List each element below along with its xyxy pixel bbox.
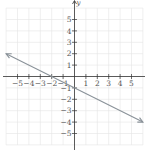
svg-text:−5: −5 [12,79,23,88]
svg-text:−5: −5 [60,129,71,138]
svg-text:4: 4 [67,27,72,36]
svg-text:−4: −4 [60,118,71,127]
svg-text:−3: −3 [35,79,46,88]
coordinate-plane: y −5−4−3−2−112345 −5−4−3−2−112345 [0,0,148,153]
svg-text:5: 5 [67,15,72,24]
svg-text:2: 2 [95,79,100,88]
svg-text:−3: −3 [60,106,71,115]
svg-text:−2: −2 [46,79,57,88]
svg-text:1: 1 [67,61,72,70]
svg-text:−2: −2 [60,95,71,104]
y-axis-label: y [76,0,82,7]
svg-text:2: 2 [67,49,72,58]
svg-text:4: 4 [118,79,123,88]
svg-text:−1: −1 [60,84,71,93]
svg-text:3: 3 [106,79,111,88]
svg-text:3: 3 [67,38,72,47]
x-ticks: −5−4−3−2−112345 [12,74,134,88]
svg-text:5: 5 [129,79,134,88]
svg-text:−4: −4 [23,79,34,88]
svg-text:1: 1 [84,79,89,88]
